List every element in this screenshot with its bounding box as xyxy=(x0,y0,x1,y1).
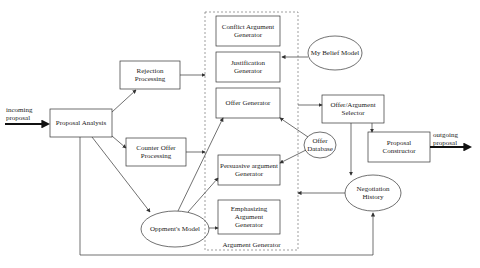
outgoing-line1: outgoing xyxy=(433,131,458,139)
argument-generator-label: Argument Generator xyxy=(205,241,298,249)
emph-line3: Generator xyxy=(218,221,280,229)
rejection-line1: Rejection xyxy=(120,67,180,75)
persuasive-line2: Generator xyxy=(216,170,282,178)
justification-node: Justification Generator xyxy=(216,59,280,75)
conflict-line1: Conflict Argument xyxy=(216,23,280,31)
counter-line1: Counter Offer xyxy=(126,144,186,152)
emph-line2: Argument xyxy=(218,213,280,221)
counter-line2: Processing xyxy=(126,152,186,160)
incoming-proposal-label: incoming proposal xyxy=(6,106,32,122)
incoming-line2: proposal xyxy=(6,114,32,122)
conflict-line2: Generator xyxy=(216,31,280,39)
outgoing-line2: proposal xyxy=(433,139,458,147)
incoming-line1: incoming xyxy=(6,106,32,114)
history-line2: History xyxy=(345,193,401,201)
constructor-line1: Proposal xyxy=(368,139,430,147)
counter-offer-node: Counter Offer Processing xyxy=(126,144,186,160)
negotiation-history-node: Negotiation History xyxy=(345,185,401,201)
history-line1: Negotiation xyxy=(345,185,401,193)
emph-line1: Emphasizing xyxy=(218,205,280,213)
selector-line2: Selector xyxy=(322,109,384,117)
rejection-line2: Processing xyxy=(120,75,180,83)
opponent-model-node: Oppment's Model xyxy=(141,225,209,233)
offer-db-line1: Offer xyxy=(304,137,336,145)
proposal-constructor-node: Proposal Constructor xyxy=(368,139,430,155)
proposal-analysis-node: Proposal Analysis xyxy=(50,119,112,127)
persuasive-line1: Persuasive argument xyxy=(216,162,282,170)
emphasizing-argument-node: Emphasizing Argument Generator xyxy=(218,205,280,229)
constructor-line2: Constructor xyxy=(368,147,430,155)
justification-line2: Generator xyxy=(216,67,280,75)
outgoing-proposal-label: outgoing proposal xyxy=(433,131,458,147)
offer-database-node: Offer Database xyxy=(304,137,336,153)
justification-line1: Justification xyxy=(216,59,280,67)
selector-line1: Offer/Argument xyxy=(322,101,384,109)
rejection-processing-node: Rejection Processing xyxy=(120,67,180,83)
belief-model-node: My Belief Model xyxy=(308,49,362,57)
conflict-argument-node: Conflict Argument Generator xyxy=(216,23,280,39)
selector-node: Offer/Argument Selector xyxy=(322,101,384,117)
offer-db-line2: Database xyxy=(304,145,336,153)
persuasive-argument-node: Persuasive argument Generator xyxy=(216,162,282,178)
offer-generator-node: Offer Generator xyxy=(216,99,280,107)
